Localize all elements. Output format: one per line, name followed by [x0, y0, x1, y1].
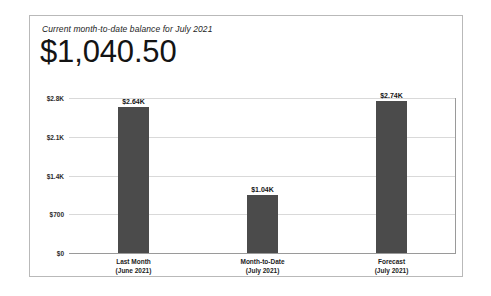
clipped-bottom-caption: [0, 286, 491, 296]
x-axis-category-label: Month-to-Date(July 2021): [240, 257, 284, 275]
y-axis-tick-label: $2.8K: [47, 95, 64, 102]
x-axis-category-label: Forecast(July 2021): [375, 257, 409, 275]
bar-value-label: $2.64K: [122, 98, 145, 105]
y-axis-tick-label: $2.1K: [47, 133, 64, 140]
x-axis-category-label: Last Month(June 2021): [116, 257, 152, 275]
x-axis-category-line: (July 2021): [375, 266, 409, 275]
balance-amount: $1,040.50: [40, 34, 177, 70]
card-title: Current month-to-date balance for July 2…: [42, 24, 212, 34]
bar-value-label: $1.04K: [251, 186, 274, 193]
bar[interactable]: [376, 101, 407, 253]
x-axis-category-line: Forecast: [375, 257, 409, 266]
y-axis-tick-label: $0: [57, 250, 64, 257]
x-axis-category-line: (June 2021): [116, 266, 152, 275]
y-axis-tick-label: $1.4K: [47, 172, 64, 179]
bar-value-label: $2.74K: [380, 92, 403, 99]
bar[interactable]: [118, 107, 149, 253]
screenshot-root: Current month-to-date balance for July 2…: [0, 0, 491, 296]
bar-group[interactable]: $2.64KLast Month(June 2021): [92, 98, 176, 253]
axis-right-line: [455, 98, 456, 253]
bar-chart-plot-area: $0$700$1.4K$2.1K$2.8K $2.64KLast Month(J…: [69, 98, 456, 253]
bar-group[interactable]: $2.74KForecast(July 2021): [350, 98, 434, 253]
bar-group[interactable]: $1.04KMonth-to-Date(July 2021): [221, 98, 305, 253]
y-axis-tick-label: $700: [50, 211, 64, 218]
x-axis-category-line: (July 2021): [240, 266, 284, 275]
x-axis-category-line: Last Month: [116, 257, 152, 266]
balance-card: Current month-to-date balance for July 2…: [29, 15, 463, 277]
gridline: [69, 253, 456, 254]
bar[interactable]: [247, 195, 278, 253]
x-axis-category-line: Month-to-Date: [240, 257, 284, 266]
